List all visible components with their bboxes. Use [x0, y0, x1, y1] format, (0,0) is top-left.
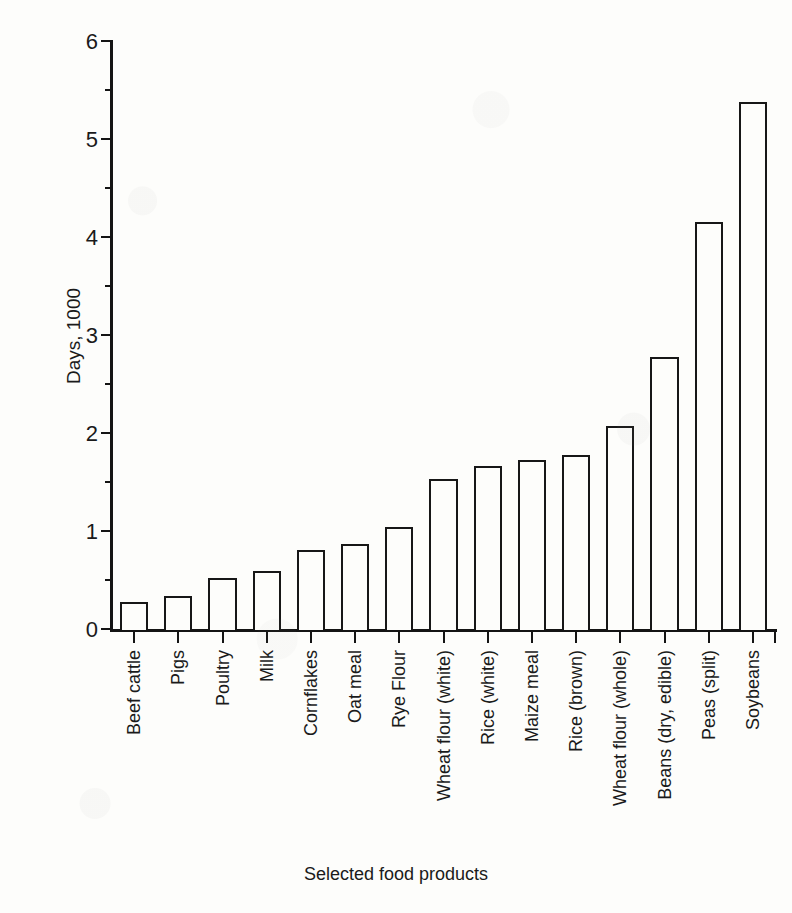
- x-tick-slot: [289, 631, 333, 643]
- x-axis-tick-label: Pigs: [169, 650, 187, 685]
- x-axis-tick: [531, 631, 533, 643]
- bar-slot: [377, 42, 421, 630]
- x-axis-tick: [708, 631, 710, 643]
- x-axis-title: Selected food products: [0, 864, 792, 885]
- x-tick-slot: [112, 631, 156, 643]
- bar[interactable]: [518, 460, 546, 630]
- x-axis-tick: [664, 631, 666, 643]
- x-label-slot: Maize meal: [510, 650, 554, 850]
- x-axis-tick: [752, 631, 754, 643]
- y-axis-tick-major: [101, 138, 112, 140]
- x-axis-ticks: [112, 631, 775, 643]
- bar-slot: [466, 42, 510, 630]
- x-axis-tick-label: Beans (dry, edible): [656, 650, 674, 800]
- x-tick-slot: [156, 631, 200, 643]
- x-axis-tick-labels: Beef cattlePigsPoultryMilkCornflakesOat …: [112, 650, 775, 850]
- y-axis-tick-minor: [105, 187, 112, 189]
- bar-slot: [554, 42, 598, 630]
- x-tick-slot: [421, 631, 465, 643]
- x-axis-tick-label: Rye Flour: [390, 650, 408, 728]
- x-tick-slot: [731, 631, 775, 643]
- bar-slot: [687, 42, 731, 630]
- bar-series: [112, 42, 775, 630]
- x-tick-slot: [200, 631, 244, 643]
- x-tick-slot: [245, 631, 289, 643]
- y-axis-tick-major: [101, 432, 112, 434]
- x-tick-slot: [598, 631, 642, 643]
- x-label-slot: Wheat flour (white): [421, 650, 465, 850]
- bar[interactable]: [120, 602, 148, 630]
- y-axis-tick-major: [101, 236, 112, 238]
- bar[interactable]: [297, 550, 325, 630]
- x-tick-slot: [642, 631, 686, 643]
- x-axis-tick: [177, 631, 179, 643]
- bar[interactable]: [695, 222, 723, 630]
- bar[interactable]: [650, 357, 678, 630]
- bar-slot: [200, 42, 244, 630]
- x-axis-tick: [222, 631, 224, 643]
- x-axis-tick-label: Soybeans: [744, 650, 762, 730]
- x-axis-tick-label: Oat meal: [346, 650, 364, 723]
- x-axis-tick: [398, 631, 400, 643]
- y-axis-tick-major: [101, 40, 112, 42]
- x-label-slot: Rice (brown): [554, 650, 598, 850]
- x-label-slot: Rye Flour: [377, 650, 421, 850]
- bar[interactable]: [739, 102, 767, 630]
- x-axis-tick: [443, 631, 445, 643]
- x-axis-tick: [774, 631, 776, 643]
- x-axis-tick-label: Milk: [258, 650, 276, 682]
- x-axis-tick-label: Wheat flour (white): [435, 650, 453, 801]
- y-axis-tick-major: [101, 334, 112, 336]
- bar[interactable]: [606, 426, 634, 630]
- y-axis-tick-minor: [105, 285, 112, 287]
- bar-slot: [510, 42, 554, 630]
- x-axis-tick-label: Peas (split): [700, 650, 718, 740]
- y-axis-tick-label: 3: [86, 325, 98, 347]
- y-axis-label: Days, 1000: [63, 288, 85, 384]
- x-label-slot: Peas (split): [687, 650, 731, 850]
- x-axis-tick: [619, 631, 621, 643]
- y-axis-tick-major: [101, 530, 112, 532]
- bar-slot: [333, 42, 377, 630]
- x-label-slot: Beef cattle: [112, 650, 156, 850]
- x-label-slot: Rice (white): [466, 650, 510, 850]
- y-axis-tick-minor: [105, 481, 112, 483]
- bar[interactable]: [341, 544, 369, 630]
- x-axis-tick-label: Maize meal: [523, 650, 541, 742]
- x-tick-slot: [687, 631, 731, 643]
- chart-page: Days, 1000 0123456 Beef cattlePigsPoultr…: [0, 0, 792, 913]
- x-axis-tick-label: Rice (brown): [567, 650, 585, 752]
- y-axis-tick-minor: [105, 579, 112, 581]
- x-tick-slot: [554, 631, 598, 643]
- bar-slot: [112, 42, 156, 630]
- bar-slot: [245, 42, 289, 630]
- x-axis-tick: [354, 631, 356, 643]
- bar[interactable]: [385, 527, 413, 630]
- y-axis-tick-minor: [105, 89, 112, 91]
- x-label-slot: Cornflakes: [289, 650, 333, 850]
- y-axis-tick-major: [101, 628, 112, 630]
- bar[interactable]: [208, 578, 236, 630]
- x-tick-slot: [333, 631, 377, 643]
- y-axis-tick-label: 5: [86, 129, 98, 151]
- x-tick-slot: [466, 631, 510, 643]
- x-label-slot: Beans (dry, edible): [642, 650, 686, 850]
- x-tick-slot: [377, 631, 421, 643]
- x-axis-tick-label: Poultry: [214, 650, 232, 706]
- bar[interactable]: [474, 466, 502, 630]
- bar[interactable]: [253, 571, 281, 630]
- x-label-slot: Oat meal: [333, 650, 377, 850]
- y-axis-tick-label: 6: [86, 31, 98, 53]
- bar[interactable]: [562, 455, 590, 630]
- y-axis-tick-label: 2: [86, 423, 98, 445]
- y-axis-tick-minor: [105, 383, 112, 385]
- x-label-slot: Wheat flour (whole): [598, 650, 642, 850]
- x-axis-tick: [487, 631, 489, 643]
- x-axis-tick-label: Cornflakes: [302, 650, 320, 736]
- plot-area: 0123456: [112, 42, 775, 630]
- bar-slot: [156, 42, 200, 630]
- x-axis-tick: [266, 631, 268, 643]
- bar[interactable]: [164, 596, 192, 630]
- bar[interactable]: [429, 479, 457, 630]
- y-axis-tick-label: 0: [86, 619, 98, 641]
